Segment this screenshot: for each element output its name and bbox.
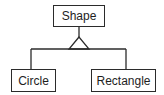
- rectangle-class-label: Rectangle: [96, 74, 150, 88]
- circle-class-box: Circle: [11, 69, 56, 92]
- shape-class-label: Shape: [62, 9, 97, 23]
- generalization-arrow-icon: [69, 37, 89, 49]
- circle-class-label: Circle: [18, 74, 49, 88]
- rectangle-class-box: Rectangle: [91, 69, 156, 92]
- shape-class-box: Shape: [53, 5, 105, 27]
- inheritance-diagram: Shape Circle Rectangle: [0, 0, 164, 95]
